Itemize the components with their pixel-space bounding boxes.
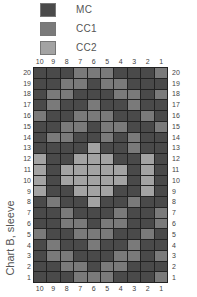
chart-cell [155, 208, 167, 218]
row-label: 6 [168, 218, 182, 229]
chart-cell [47, 272, 59, 282]
chart-cell [114, 133, 126, 143]
chart-cell [128, 111, 140, 121]
row-label: 19 [17, 78, 31, 89]
column-label: 1 [155, 58, 169, 65]
chart-cell [114, 272, 126, 282]
chart-cell [47, 208, 59, 218]
chart-cell [155, 133, 167, 143]
chart-cell [74, 165, 86, 175]
chart-cell [34, 176, 46, 186]
chart-cell [128, 229, 140, 239]
row-label: 3 [17, 251, 31, 262]
chart-cell [61, 240, 73, 250]
chart-cell [47, 197, 59, 207]
row-label: 16 [168, 110, 182, 121]
chart-grid [33, 67, 168, 283]
chart-cell [155, 79, 167, 89]
chart-cell [74, 197, 86, 207]
chart-cell [128, 240, 140, 250]
row-label: 4 [17, 240, 31, 251]
chart-cell [101, 251, 113, 261]
chart-cell [101, 240, 113, 250]
swatch-cc2 [40, 41, 56, 55]
chart-cell [74, 68, 86, 78]
chart-cell [88, 68, 100, 78]
chart-cell [47, 111, 59, 121]
chart-cell [141, 176, 153, 186]
legend-item-cc1: CC1 [40, 20, 97, 37]
chart-cell [141, 251, 153, 261]
chart-cell [101, 122, 113, 132]
chart-cell [114, 229, 126, 239]
chart-cell [88, 176, 100, 186]
chart-cell [155, 165, 167, 175]
chart-cell [88, 186, 100, 196]
chart-cell [101, 197, 113, 207]
chart-cell [47, 186, 59, 196]
chart-cell [88, 272, 100, 282]
chart-cell [47, 79, 59, 89]
chart-cell [61, 100, 73, 110]
chart-cell [47, 133, 59, 143]
legend-label: MC [76, 4, 92, 15]
chart-cell [128, 133, 140, 143]
chart-cell [47, 251, 59, 261]
chart-cell [74, 90, 86, 100]
swatch-mc [40, 3, 56, 17]
chart-cell [34, 197, 46, 207]
chart-cell [155, 176, 167, 186]
chart-cell [128, 272, 140, 282]
chart-cell [141, 90, 153, 100]
chart-cell [128, 143, 140, 153]
chart-cell [155, 122, 167, 132]
legend-item-cc2: CC2 [40, 39, 97, 56]
column-label: 4 [114, 285, 128, 292]
chart-cell [128, 90, 140, 100]
column-label: 3 [128, 285, 142, 292]
chart-cell [88, 79, 100, 89]
row-label: 5 [17, 229, 31, 240]
chart-cell [34, 229, 46, 239]
row-label: 7 [17, 207, 31, 218]
chart-cell [74, 143, 86, 153]
chart-cell [88, 143, 100, 153]
chart-cell [114, 68, 126, 78]
chart-cell [74, 154, 86, 164]
chart-cell [101, 79, 113, 89]
chart-cell [74, 251, 86, 261]
row-label: 13 [168, 143, 182, 154]
chart-cell [155, 197, 167, 207]
chart-cell [61, 197, 73, 207]
chart-cell [34, 100, 46, 110]
column-label: 2 [141, 58, 155, 65]
chart-cell [88, 251, 100, 261]
chart-cell [74, 219, 86, 229]
row-label: 17 [17, 99, 31, 110]
row-label: 14 [168, 132, 182, 143]
chart-cell [74, 240, 86, 250]
chart-cell [47, 154, 59, 164]
row-labels-left: 2019181716151413121110987654321 [17, 67, 31, 283]
chart-cell [34, 79, 46, 89]
column-label: 7 [74, 285, 88, 292]
row-label: 4 [168, 240, 182, 251]
column-label: 9 [47, 58, 61, 65]
chart-cell [155, 111, 167, 121]
chart-cell [74, 176, 86, 186]
chart-cell [128, 68, 140, 78]
chart-cell [101, 186, 113, 196]
chart-cell [88, 262, 100, 272]
row-label: 17 [168, 99, 182, 110]
row-label: 18 [168, 89, 182, 100]
row-label: 7 [168, 207, 182, 218]
chart-cell [34, 251, 46, 261]
chart-cell [61, 111, 73, 121]
column-label: 5 [101, 58, 115, 65]
chart-cell [34, 219, 46, 229]
chart-cell [88, 90, 100, 100]
row-label: 20 [168, 67, 182, 78]
column-label: 6 [87, 285, 101, 292]
chart-cell [141, 133, 153, 143]
row-label: 2 [168, 261, 182, 272]
